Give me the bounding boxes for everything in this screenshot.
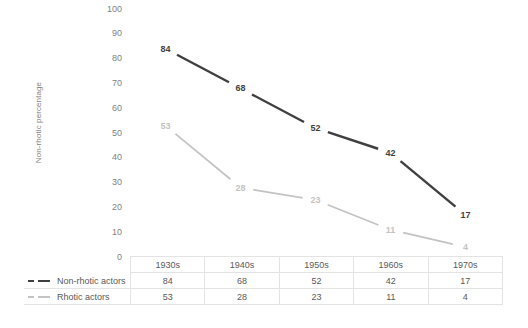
data-table: 1930s1940s1950s1960s1970s Non-rhotic act… bbox=[24, 256, 503, 305]
data-point-label: 68 bbox=[235, 84, 245, 93]
table-cell: 53 bbox=[131, 289, 205, 305]
series-segment bbox=[403, 233, 453, 244]
series-segment bbox=[177, 55, 229, 83]
table-column-header: 1960s bbox=[354, 257, 428, 273]
series-segment bbox=[328, 132, 378, 149]
data-point-label: 52 bbox=[310, 124, 320, 133]
y-tick-label: 30 bbox=[88, 178, 122, 187]
y-tick-label: 100 bbox=[88, 5, 122, 14]
legend-line-icon bbox=[26, 277, 54, 285]
table-cell: 84 bbox=[131, 273, 205, 289]
series-segment bbox=[252, 94, 304, 122]
series-segment bbox=[328, 205, 379, 225]
legend-entry: Non-rhotic actors bbox=[24, 273, 131, 289]
table-cell: 42 bbox=[354, 273, 428, 289]
data-point-label: 17 bbox=[460, 210, 470, 219]
table-cell: 17 bbox=[428, 273, 502, 289]
plot-area: 8468524217532823114 bbox=[128, 9, 503, 257]
y-tick-label: 50 bbox=[88, 129, 122, 138]
data-point-label: 42 bbox=[385, 148, 395, 157]
table-header-row: 1930s1940s1950s1960s1970s bbox=[24, 257, 503, 273]
legend-line-icon bbox=[26, 293, 54, 301]
table-column-header: 1930s bbox=[131, 257, 205, 273]
table-row: Non-rhotic actors8468524217 bbox=[24, 273, 503, 289]
data-point-label: 84 bbox=[160, 44, 170, 53]
table-corner-cell bbox=[24, 257, 131, 273]
series-segment bbox=[176, 134, 231, 179]
table-cell: 28 bbox=[205, 289, 279, 305]
data-point-label: 4 bbox=[463, 243, 468, 252]
y-tick-label: 10 bbox=[88, 228, 122, 237]
table-cell: 4 bbox=[428, 289, 502, 305]
y-tick-label: 40 bbox=[88, 153, 122, 162]
table-column-header: 1970s bbox=[428, 257, 502, 273]
series-segment bbox=[401, 161, 456, 206]
y-tick-label: 80 bbox=[88, 54, 122, 63]
y-tick-label: 20 bbox=[88, 203, 122, 212]
line-chart: Non-rhotic percentage 010203040506070809… bbox=[0, 0, 528, 328]
table-column-header: 1940s bbox=[205, 257, 279, 273]
table-cell: 11 bbox=[354, 289, 428, 305]
y-tick-label: 90 bbox=[88, 29, 122, 38]
y-tick-label: 60 bbox=[88, 104, 122, 113]
data-point-label: 53 bbox=[160, 121, 170, 130]
table-cell: 68 bbox=[205, 273, 279, 289]
plot-lines bbox=[128, 9, 503, 257]
data-point-label: 23 bbox=[310, 195, 320, 204]
series-segment bbox=[253, 190, 302, 198]
table-body: Non-rhotic actors8468524217Rhotic actors… bbox=[24, 273, 503, 305]
table-row: Rhotic actors532823114 bbox=[24, 289, 503, 305]
y-axis-title: Non-rhotic percentage bbox=[34, 43, 43, 203]
legend-entry: Rhotic actors bbox=[24, 289, 131, 305]
data-point-label: 28 bbox=[235, 183, 245, 192]
table-cell: 52 bbox=[279, 273, 353, 289]
legend-label: Rhotic actors bbox=[57, 292, 110, 302]
y-tick-label: 70 bbox=[88, 79, 122, 88]
table-column-header: 1950s bbox=[279, 257, 353, 273]
table-cell: 23 bbox=[279, 289, 353, 305]
legend-label: Non-rhotic actors bbox=[57, 276, 126, 286]
data-point-label: 11 bbox=[386, 225, 396, 234]
